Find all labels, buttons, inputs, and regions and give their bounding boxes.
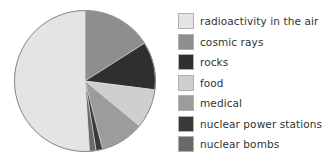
legend-swatch <box>178 75 194 91</box>
legend-item-nuclear-power-stations: nuclear power stations <box>178 114 322 135</box>
legend-label: cosmic rays <box>200 36 263 48</box>
legend-item-food: food <box>178 73 322 94</box>
legend-label: food <box>200 77 224 89</box>
pie-slice-radioactivity-in-the-air <box>14 11 89 152</box>
legend-item-cosmic-rays: cosmic rays <box>178 32 322 53</box>
legend-swatch <box>178 13 194 29</box>
legend-swatch <box>178 54 194 70</box>
legend-item-medical: medical <box>178 93 322 114</box>
legend-label: medical <box>200 97 242 109</box>
legend-label: nuclear power stations <box>200 118 322 130</box>
legend-label: rocks <box>200 56 228 68</box>
pie-chart <box>0 0 170 163</box>
legend-label: nuclear bombs <box>200 138 279 150</box>
legend: radioactivity in the air cosmic rays roc… <box>178 11 322 155</box>
legend-swatch <box>178 136 194 152</box>
legend-swatch <box>178 95 194 111</box>
legend-swatch <box>178 116 194 132</box>
legend-swatch <box>178 34 194 50</box>
legend-item-rocks: rocks <box>178 52 322 73</box>
legend-label: radioactivity in the air <box>200 15 318 27</box>
legend-item-air: radioactivity in the air <box>178 11 322 32</box>
legend-item-nuclear-bombs: nuclear bombs <box>178 134 322 155</box>
